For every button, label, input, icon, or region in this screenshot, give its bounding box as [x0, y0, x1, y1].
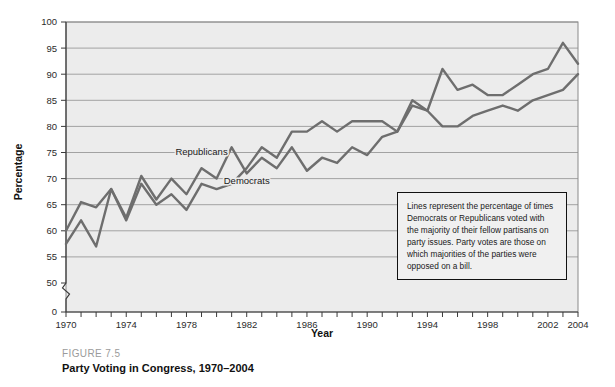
y-axis-ticks-group: 050556065707580859095100	[41, 16, 66, 317]
x-tick-label: 1974	[116, 319, 137, 330]
series-label-republicans: Republicans	[175, 146, 228, 157]
x-tick-label: 2002	[537, 319, 558, 330]
series-label-democrats: Democrats	[224, 175, 270, 186]
y-tick-label: 85	[46, 95, 57, 106]
y-tick-label: 60	[46, 225, 57, 236]
y-axis-title: Percentage	[12, 144, 24, 201]
x-tick-label: 1998	[477, 319, 498, 330]
x-axis-title: Year	[311, 327, 333, 339]
x-tick-label: 1970	[55, 319, 76, 330]
figure-container: 050556065707580859095100 197019741978198…	[0, 0, 615, 387]
x-tick-label: 2004	[567, 319, 588, 330]
y-tick-label: 80	[46, 121, 57, 132]
x-tick-label: 1978	[176, 319, 197, 330]
y-tick-label: 70	[46, 173, 57, 184]
x-tick-label: 1982	[236, 319, 257, 330]
figure-caption: FIGURE 7.5 Party Voting in Congress, 197…	[62, 348, 582, 374]
x-tick-label: 1994	[417, 319, 438, 330]
note-box-text: Lines represent the percentage of times …	[407, 200, 557, 272]
y-tick-label: 50	[46, 277, 57, 288]
x-tick-label: 1990	[357, 319, 378, 330]
y-tick-label: 95	[46, 43, 57, 54]
y-tick-label: 90	[46, 69, 57, 80]
party-voting-line-chart: 050556065707580859095100 197019741978198…	[0, 0, 615, 340]
figure-number: FIGURE 7.5	[62, 348, 582, 359]
y-tick-label: 75	[46, 147, 57, 158]
y-tick-label: 0	[52, 306, 57, 317]
note-box: Lines represent the percentage of times …	[397, 192, 567, 280]
y-tick-label: 100	[41, 16, 57, 27]
y-tick-label: 65	[46, 199, 57, 210]
y-tick-label: 55	[46, 251, 57, 262]
figure-title: Party Voting in Congress, 1970–2004	[62, 362, 582, 374]
